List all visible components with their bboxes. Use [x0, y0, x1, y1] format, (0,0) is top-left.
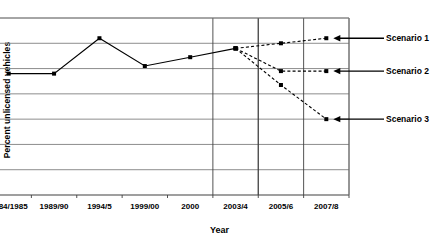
data-point-marker [97, 36, 101, 40]
data-point-marker [324, 69, 328, 73]
annotation-label: Scenario 1 [386, 33, 429, 43]
x-axis-tick-labels: 1984/19851989/901994/51999/0020002003/42… [0, 195, 349, 211]
data-point-marker [279, 69, 283, 73]
line-chart-plot: 01234567 1984/19851989/901994/51999/0020… [0, 0, 439, 244]
annotation-scenario1: Scenario 1 [333, 33, 429, 43]
x-tick-label: 1999/00 [130, 202, 159, 211]
x-tick-label: 2005/6 [269, 202, 294, 211]
annotation-label: Scenario 2 [386, 66, 429, 76]
x-axis-title: Year [0, 225, 439, 235]
data-series-layer [7, 36, 329, 121]
data-point-marker [188, 55, 192, 59]
data-point-marker [279, 41, 283, 45]
data-point-marker [324, 117, 328, 121]
data-point-marker [279, 83, 283, 87]
data-point-marker [324, 36, 328, 40]
annotation-label: Scenario 3 [386, 114, 429, 124]
scenario-annotations-layer: Scenario 1Scenario 2Scenario 3 [333, 33, 429, 124]
x-tick-label: 2003/4 [223, 202, 248, 211]
data-point-marker [234, 46, 238, 50]
chart-container: Percent unlicensed vehicles 01234567 198… [0, 0, 439, 244]
annotation-scenario2: Scenario 2 [333, 66, 429, 76]
x-tick-label: 1984/1985 [0, 202, 28, 211]
x-tick-label: 2007/8 [314, 202, 339, 211]
x-tick-label: 1989/90 [40, 202, 69, 211]
horizontal-gridlines [0, 18, 349, 170]
data-point-marker [52, 72, 56, 76]
annotation-scenario3: Scenario 3 [333, 114, 429, 124]
data-point-marker [7, 72, 11, 76]
data-point-marker [143, 64, 147, 68]
x-tick-label: 1994/5 [87, 202, 112, 211]
x-tick-label: 2000 [181, 202, 199, 211]
axis-frame [0, 18, 349, 195]
